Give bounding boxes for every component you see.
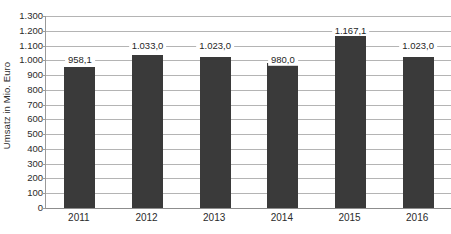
y-axis-tick-label: 1.300: [10, 11, 43, 21]
y-axis-tick: [42, 90, 46, 91]
y-axis-tick: [42, 105, 46, 106]
y-axis-tick-label: 500: [10, 129, 43, 139]
y-axis-tick: [42, 193, 46, 194]
x-axis-tick-label: 2013: [203, 212, 225, 223]
gridline: [46, 31, 451, 32]
gridline: [46, 149, 451, 150]
y-axis-tick-label: 200: [10, 174, 43, 184]
gridline: [46, 105, 451, 106]
y-axis-tick-label: 800: [10, 85, 43, 95]
y-axis-tick-label: 600: [10, 115, 43, 125]
y-axis-tick: [42, 178, 46, 179]
bar: [335, 36, 366, 208]
plot-area: 958,11.033,01.023,0980,01.167,11.023,0: [45, 16, 451, 208]
gridline: [46, 46, 451, 47]
bar: [403, 57, 434, 208]
bar: [267, 63, 298, 208]
y-axis-tick: [42, 149, 46, 150]
x-axis-tick-label: 2015: [338, 212, 360, 223]
bar-value-label: 1.023,0: [196, 40, 234, 50]
bar-value-label: 1.033,0: [129, 40, 167, 50]
x-axis-tick-labels: 201120122013201420152016: [45, 212, 451, 232]
gridline: [46, 193, 451, 194]
y-axis-tick-label: 300: [10, 159, 43, 169]
gridline: [46, 60, 451, 61]
y-axis-tick-label: 700: [10, 100, 43, 110]
y-axis-tick: [42, 119, 46, 120]
y-axis-tick: [42, 60, 46, 61]
bar: [200, 57, 231, 208]
y-axis-tick: [42, 75, 46, 76]
y-axis-tick-label: 900: [10, 70, 43, 80]
bar: [64, 67, 95, 209]
y-axis-tick-label: 1.200: [10, 26, 43, 36]
bar-value-label: 958,1: [65, 55, 95, 65]
y-axis-tick: [42, 46, 46, 47]
bar-value-label: 1.167,1: [332, 26, 370, 36]
y-axis-tick: [42, 134, 46, 135]
y-axis-tick: [42, 31, 46, 32]
y-axis-tick-label: 0: [10, 203, 43, 213]
x-axis-tick-label: 2012: [135, 212, 157, 223]
y-axis-tick-label: 1.000: [10, 56, 43, 66]
y-axis-tick: [42, 164, 46, 165]
y-axis-tick-label: 1.100: [10, 41, 43, 51]
gridline: [46, 90, 451, 91]
bar-chart: Umsatz in Mio. Euro 01002003004005006007…: [0, 0, 451, 234]
gridline: [46, 119, 451, 120]
y-axis-tick-label: 400: [10, 144, 43, 154]
gridline: [46, 164, 451, 165]
x-axis-tick-label: 2016: [406, 212, 428, 223]
y-axis-tick-labels: 01002003004005006007008009001.0001.1001.…: [10, 0, 43, 234]
gridline: [46, 178, 451, 179]
bar-value-label: 1.023,0: [399, 40, 437, 50]
y-axis-tick: [42, 208, 46, 209]
x-axis-tick-label: 2011: [68, 212, 90, 223]
y-axis-tick: [42, 16, 46, 17]
y-axis-tick-label: 100: [10, 188, 43, 198]
gridline: [46, 75, 451, 76]
bar-value-label: 980,0: [268, 55, 298, 65]
gridline: [46, 134, 451, 135]
gridline: [46, 16, 451, 17]
gridline: [46, 208, 451, 209]
x-axis-tick-label: 2014: [271, 212, 293, 223]
bar: [132, 55, 163, 208]
